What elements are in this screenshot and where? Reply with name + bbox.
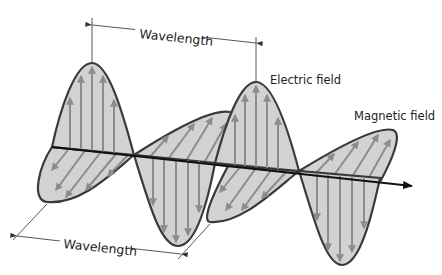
magnetic-lobe-3 bbox=[207, 166, 299, 222]
electric-field-label: Electric field bbox=[270, 73, 341, 87]
wavelength-label-bottom: Wavelength bbox=[63, 236, 138, 259]
wavelength-label-top: Wavelength bbox=[139, 26, 214, 49]
electric-lobe-4 bbox=[299, 171, 380, 265]
em-wave-diagram: Wavelength Wavelength Electric field Mag… bbox=[0, 0, 442, 275]
magnetic-field-label: Magnetic field bbox=[354, 109, 435, 123]
wavelength-dimension-top bbox=[92, 18, 256, 82]
electric-lobe-3 bbox=[215, 82, 299, 171]
electric-lobe-1 bbox=[52, 63, 134, 155]
